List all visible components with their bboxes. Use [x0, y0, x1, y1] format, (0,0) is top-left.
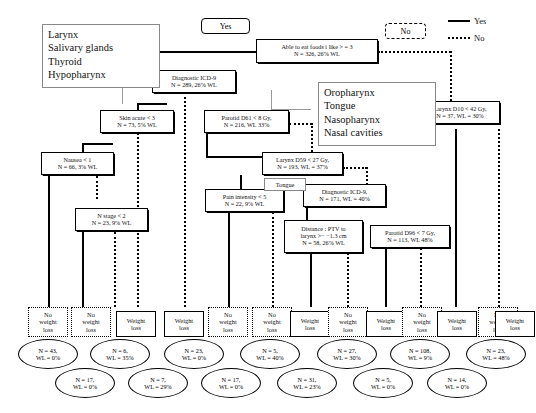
edge-pain-yes-vertical	[228, 212, 230, 307]
oval-8-line2: WL = 23%	[293, 383, 320, 390]
oval-11-line1: N = 108,	[409, 347, 431, 354]
edge-parotid61-yes-vertical-a	[206, 133, 208, 157]
oval-2-line2: WL = 0%	[73, 383, 97, 390]
leaf-weight-loss-13[interactable]: Weight loss	[495, 311, 535, 337]
node-diagnostic-icd9-b[interactable]: Diagnostic ICD-9, N = 171, WL = 40%	[303, 184, 386, 207]
node-pain-intensity[interactable]: Pain intensity < 5 N = 22, 9% WL	[205, 189, 284, 212]
node-larynx10-line2: N = 37, WL = 30%	[436, 113, 484, 120]
callout-right-group: Oropharynx Tongue Nasopharynx Nasal cavi…	[318, 82, 436, 146]
edge-larynx59-no-horizontal	[343, 167, 367, 169]
oval-12-line1: N = 14,	[448, 376, 467, 383]
leaf-no-weight-loss-1[interactable]: No weight loss	[28, 307, 68, 337]
edge-icd9a-yes-horizontal	[137, 103, 167, 105]
edge-larynx10-yes-vertical	[455, 129, 457, 307]
oval-result-2: N = 17, WL = 0%	[55, 368, 115, 398]
edge-distance-no-vertical	[347, 253, 349, 307]
oval-13-line1: N = 23,	[487, 347, 506, 354]
edge-nstage-yes-vertical	[82, 232, 84, 307]
node-distance-line3: N = 58, 26% WL	[302, 240, 345, 247]
leaf-10-line3: loss	[417, 326, 427, 333]
oval-12-line2: WL = 0%	[445, 383, 469, 390]
edge-larynx59-yes-vertical-a	[240, 175, 242, 190]
node-parotid96-line2: N = 113, WL 48%	[387, 237, 432, 244]
node-diagnostic-icd9-a[interactable]: Diagnostic ICD-9 N = 289, 26% WL	[152, 70, 236, 93]
leaf-no-weight-loss-10[interactable]: No weight loss	[402, 307, 442, 337]
oval-4-line2: WL = 29%	[144, 383, 171, 390]
node-parotid-d96[interactable]: Parotid D96 < 7 Gy, N = 113, WL 48%	[370, 225, 450, 248]
leaf-weight-loss-9[interactable]: Weight loss	[366, 311, 406, 337]
leaf-weight-loss-3[interactable]: Weight loss	[116, 311, 156, 337]
oval-result-1: N = 43, WL = 0%	[18, 339, 78, 369]
leaf-no-weight-loss-8[interactable]: No weight loss	[328, 307, 368, 337]
oval-13-line2: WL = 48%	[482, 354, 509, 361]
callout-right-line-1: Tongue	[324, 99, 430, 112]
legend-yes-label: Yes	[474, 16, 486, 26]
oval-result-9: N = 27, WL = 30%	[317, 339, 377, 369]
legend-no: No	[448, 33, 484, 43]
leaf-no-weight-loss-2[interactable]: No weight loss	[71, 307, 111, 337]
node-skin-line2: N = 73, 5% WL	[117, 122, 157, 129]
legend-no-line-icon	[448, 37, 470, 39]
callout-tongue: Tongue	[264, 178, 306, 191]
leaf-4-line1: Weight	[175, 317, 193, 324]
edge-parotid61-no-horizontal	[289, 123, 312, 125]
leaf-no-weight-loss-6[interactable]: No weight loss	[252, 307, 292, 337]
oval-4-line1: N = 7,	[150, 376, 166, 383]
oval-result-10: N = 5, WL = 0%	[353, 368, 413, 398]
edge-root-no-vertical	[450, 51, 452, 101]
leaf-1-line3: loss	[43, 326, 53, 333]
decision-tree-figure: Yes No	[0, 0, 536, 413]
callout-tongue-label: Tongue	[276, 181, 294, 188]
oval-9-line2: WL = 30%	[333, 354, 360, 361]
node-nausea-line2: N = 66, 3% WL	[58, 164, 98, 171]
leaf-no-weight-loss-5[interactable]: No weight loss	[208, 307, 248, 337]
leaf-weight-loss-4[interactable]: Weight loss	[164, 311, 204, 337]
oval-result-11: N = 108, WL = 9%	[390, 339, 450, 369]
node-nstage-line2: N = 23, 9% WL	[92, 220, 132, 227]
callout-right-line-3: Nasal cavities	[324, 126, 430, 139]
legend-yes-line-icon	[448, 20, 470, 22]
leaf-2-line1: No	[87, 311, 95, 318]
leaf-4-line2: loss	[179, 324, 189, 331]
pill-no-label: No	[401, 27, 411, 36]
node-icd9a-line2: N = 289, 26% WL	[171, 82, 217, 89]
node-icd9b-line2: N = 171, WL = 40%	[319, 196, 370, 203]
node-nausea[interactable]: Nausea < 1 N = 66, 3% WL	[41, 152, 114, 175]
node-larynx-d59[interactable]: Larynx D59 < 27 Gy, N = 193, WL = 37%	[262, 152, 343, 175]
callout-left-line-0: Larynx	[48, 28, 154, 41]
pill-yes-label: Yes	[220, 22, 232, 31]
node-larynx59-line2: N = 193, WL = 37%	[277, 164, 328, 171]
node-pain-line2: N = 22, 9% WL	[225, 201, 265, 208]
oval-5-line2: WL = 0%	[182, 354, 206, 361]
leaf-6-line3: loss	[267, 326, 277, 333]
oval-3-line2: WL = 35%	[106, 354, 133, 361]
oval-result-13: N = 23, WL = 48%	[466, 339, 526, 369]
node-distance-ptv[interactable]: Distance : PTV to larynx >− −1.3 cm N = …	[284, 220, 363, 253]
oval-result-5: N = 23, WL = 0%	[164, 339, 224, 369]
leaf-7-line2: loss	[305, 324, 315, 331]
node-n-stage[interactable]: N stage < 2 N = 23, 9% WL	[75, 208, 148, 231]
oval-10-line2: WL = 0%	[371, 383, 395, 390]
leaf-9-line2: loss	[381, 324, 391, 331]
right-callout-leader	[271, 90, 272, 110]
leaf-3-line1: Weight	[127, 317, 145, 324]
leaf-9-line1: Weight	[377, 317, 395, 324]
oval-result-7: N = 5, WL = 40%	[240, 339, 300, 369]
callout-left-group: Larynx Salivary glands Thyroid Hypophary…	[42, 24, 160, 88]
oval-result-3: N = 6, WL = 35%	[90, 339, 150, 369]
edge-icd9b-yes-vertical	[306, 206, 308, 220]
node-parotid-d61[interactable]: Parotid D61 < 8 Gy, N = 216, WL 33%	[204, 110, 289, 133]
oval-result-8: N = 31, WL = 23%	[277, 368, 337, 398]
leaf-weight-loss-11[interactable]: Weight loss	[437, 311, 477, 337]
edge-root-no-horizontal	[378, 51, 451, 53]
leaf-11-line1: Weight	[448, 317, 466, 324]
oval-6-line1: N = 17,	[222, 376, 241, 383]
leaf-13-line2: loss	[510, 324, 520, 331]
node-root[interactable]: Able to eat foods i like > = 3 N = 326, …	[256, 39, 378, 63]
callout-right-line-0: Oropharynx	[324, 86, 430, 99]
leaf-weight-loss-7[interactable]: Weight loss	[290, 311, 330, 337]
leaf-6-line1: No	[268, 311, 276, 318]
node-skin-acute[interactable]: Skin acute < 3 N = 73, 5% WL	[100, 110, 174, 133]
edge-skin-yes-horizontal	[82, 143, 113, 145]
node-parotid61-line2: N = 216, WL 33%	[224, 122, 270, 129]
